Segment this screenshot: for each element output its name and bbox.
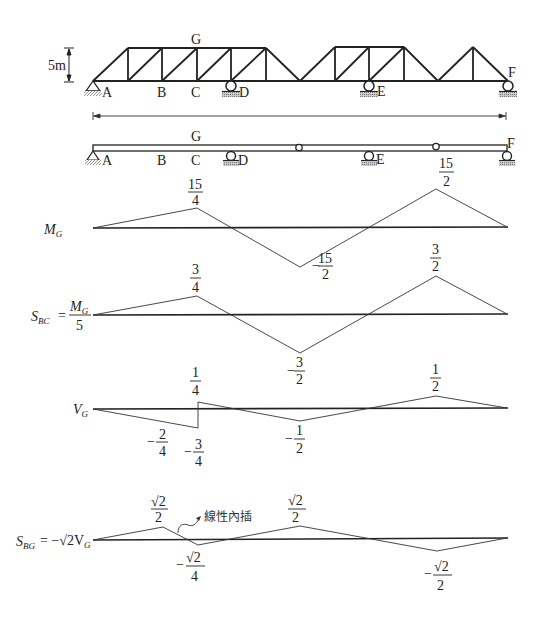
svg-text:−: − <box>285 431 293 446</box>
svg-text:1: 1 <box>432 362 439 377</box>
value-sbc-3-4: 3 4 <box>190 262 201 295</box>
svg-text:1: 1 <box>296 423 303 438</box>
label-sbc: SBC = MG 5 <box>31 299 91 333</box>
value-sbc-neg-3-2: − 3 2 <box>287 355 305 387</box>
svg-text:4: 4 <box>192 193 199 208</box>
influence-line-sbc <box>93 276 508 353</box>
svg-text:4: 4 <box>191 569 198 584</box>
svg-text:2: 2 <box>443 174 450 189</box>
span-dimension <box>93 112 506 120</box>
svg-text:4: 4 <box>192 383 199 398</box>
value-sbg-sqrt2-2-a: √2 2 <box>151 494 168 525</box>
value-mg-15-2: 15 2 <box>439 156 454 189</box>
value-sbg-sqrt2-2-b: √2 2 <box>288 493 306 525</box>
value-vg-neg-3-4: − 3 4 <box>184 437 204 469</box>
svg-text:−: − <box>176 557 184 572</box>
node-label-g: G <box>191 32 201 47</box>
beam-label-a: A <box>102 153 113 168</box>
svg-text:2: 2 <box>296 441 303 456</box>
value-mg-neg-15-2: − 15 2 <box>312 251 333 282</box>
svg-text:−: − <box>287 363 295 378</box>
value-vg-neg-1-2: − 1 2 <box>285 423 305 456</box>
value-vg-1-2: 1 2 <box>430 362 441 394</box>
node-label-a: A <box>102 85 113 100</box>
svg-text:4: 4 <box>159 444 166 459</box>
beam-roller-support-d <box>223 152 239 167</box>
svg-text:15: 15 <box>439 156 453 171</box>
beam-model <box>93 143 507 151</box>
svg-text:2: 2 <box>437 578 444 593</box>
truss <box>93 47 508 81</box>
value-vg-1-4: 1 4 <box>190 365 201 398</box>
svg-text:2: 2 <box>432 259 439 274</box>
label-vg: VG <box>73 402 89 419</box>
svg-text:= −√2VG: = −√2VG <box>40 533 91 550</box>
svg-text:=: = <box>58 308 66 323</box>
beam-label-c: C <box>191 153 200 168</box>
roller-support-f <box>499 81 517 97</box>
beam-pin-support-a <box>85 151 101 165</box>
svg-text:4: 4 <box>195 454 202 469</box>
interpolation-annotation: 線性內插 <box>178 509 252 533</box>
label-mg: MG <box>43 222 63 239</box>
svg-text:√2: √2 <box>186 550 201 565</box>
svg-text:15: 15 <box>188 177 202 192</box>
node-label-c: C <box>191 85 200 100</box>
svg-text:SBC: SBC <box>31 309 50 326</box>
value-sbg-neg-sqrt2-2: − √2 2 <box>424 559 452 593</box>
height-label: 5m <box>48 58 66 73</box>
node-label-f: F <box>508 65 516 80</box>
node-label-b: B <box>157 85 166 100</box>
svg-text:2: 2 <box>322 267 329 282</box>
roller-support-d <box>222 81 240 97</box>
beam-label-b: B <box>157 153 166 168</box>
pin-support-a <box>84 81 102 96</box>
svg-text:2: 2 <box>159 427 166 442</box>
svg-text:√2: √2 <box>151 494 166 509</box>
svg-text:2: 2 <box>292 510 299 525</box>
svg-text:3: 3 <box>432 242 439 257</box>
svg-text:3: 3 <box>192 262 199 277</box>
svg-text:3: 3 <box>195 437 202 452</box>
value-vg-neg-2-4: − 2 4 <box>147 427 168 459</box>
svg-text:線性內插: 線性內插 <box>204 509 252 524</box>
svg-text:5: 5 <box>76 318 83 333</box>
beam-roller-support-f <box>499 151 515 166</box>
svg-text:2: 2 <box>155 510 162 525</box>
roller-support-e <box>360 81 378 97</box>
value-sbc-3-2: 3 2 <box>430 242 441 274</box>
svg-text:4: 4 <box>192 280 199 295</box>
svg-text:−: − <box>424 566 432 581</box>
node-label-d: D <box>239 85 249 100</box>
value-mg-15-4: 15 4 <box>188 177 203 208</box>
node-label-e: E <box>377 84 386 99</box>
beam-label-g: G <box>191 129 201 144</box>
svg-text:15: 15 <box>318 251 332 266</box>
svg-text:2: 2 <box>296 372 303 387</box>
value-sbg-neg-sqrt2-4: − √2 4 <box>176 550 205 584</box>
influence-line-diagram: 5m A B C D E F G <box>0 0 538 623</box>
svg-text:√2: √2 <box>434 559 449 574</box>
label-sbg: SBG = −√2VG <box>16 533 91 551</box>
beam-roller-support-e <box>361 152 377 167</box>
svg-text:2: 2 <box>432 379 439 394</box>
beam-label-d: D <box>238 153 248 168</box>
beam-label-f: F <box>507 136 515 151</box>
svg-text:3: 3 <box>296 355 303 370</box>
influence-line-sbg <box>93 526 508 551</box>
influence-line-mg <box>93 189 508 267</box>
svg-text:SBG: SBG <box>16 534 35 551</box>
svg-text:1: 1 <box>192 365 199 380</box>
svg-text:−: − <box>147 434 155 449</box>
svg-text:√2: √2 <box>288 493 303 508</box>
svg-text:MG: MG <box>69 299 89 316</box>
beam-label-e: E <box>376 152 385 167</box>
svg-text:−: − <box>184 444 192 459</box>
